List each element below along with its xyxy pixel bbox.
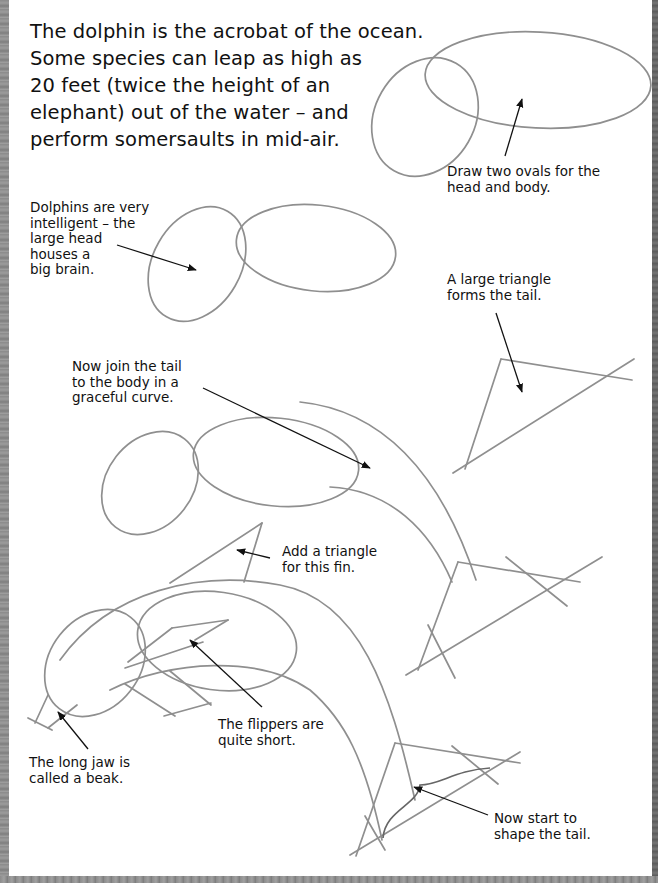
note-brain: Dolphins are very intelligent – the larg…: [30, 200, 149, 278]
note-line: called a beak.: [29, 771, 130, 787]
intro-line: The dolphin is the acrobat of the ocean.: [30, 18, 500, 45]
step2-ovals: [128, 189, 400, 339]
note-line: big brain.: [30, 262, 149, 278]
note-line: intelligent – the: [30, 216, 149, 232]
note-join-tail: Now join the tail to the body in a grace…: [72, 359, 182, 406]
note-line: The flippers are: [218, 717, 324, 733]
intro-line: 20 feet (twice the height of an: [30, 72, 500, 99]
note-line: to the body in a: [72, 375, 182, 391]
step4-dolphin: [24, 523, 520, 856]
note-line: shape the tail.: [494, 827, 591, 843]
note-line: Draw two ovals for the: [447, 164, 600, 180]
arrow-join-tail: [203, 388, 370, 468]
note-line: Now join the tail: [72, 359, 182, 375]
note-line: graceful curve.: [72, 390, 182, 406]
arrow-shape-tail: [414, 787, 488, 815]
intro-paragraph: The dolphin is the acrobat of the ocean.…: [30, 18, 500, 153]
note-line: houses a: [30, 247, 149, 263]
step2-tail-triangle: [453, 359, 634, 473]
note-draw-ovals: Draw two ovals for the head and body.: [447, 164, 600, 195]
note-line: A large triangle: [447, 272, 551, 288]
note-tail-triangle: A large triangle forms the tail.: [447, 272, 551, 303]
note-fin: Add a triangle for this fin.: [282, 544, 377, 575]
note-line: large head: [30, 231, 149, 247]
intro-line: elephant) out of the water – and: [30, 99, 500, 126]
note-beak: The long jaw is called a beak.: [29, 755, 130, 786]
intro-line: Some species can leap as high as: [30, 45, 500, 72]
note-line: The long jaw is: [29, 755, 130, 771]
note-shape-tail: Now start to shape the tail.: [494, 811, 591, 842]
note-line: Add a triangle: [282, 544, 377, 560]
note-line: forms the tail.: [447, 288, 551, 304]
note-line: Now start to: [494, 811, 591, 827]
note-line: Dolphins are very: [30, 200, 149, 216]
note-flippers: The flippers are quite short.: [218, 717, 324, 748]
note-line: quite short.: [218, 733, 324, 749]
arrow-tail-triangle: [496, 313, 522, 392]
note-line: head and body.: [447, 180, 600, 196]
note-line: for this fin.: [282, 560, 377, 576]
arrow-beak: [58, 712, 88, 749]
intro-line: perform somersaults in mid-air.: [30, 126, 500, 153]
